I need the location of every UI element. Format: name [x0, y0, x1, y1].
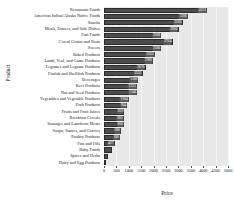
bar-value-label: 808	[117, 122, 124, 127]
bar-value-label: 2052	[146, 52, 154, 57]
bar[interactable]	[104, 39, 173, 44]
bar-value-label: 1553	[134, 71, 142, 76]
bar-value-label: 819	[117, 109, 124, 114]
x-tick-label: 3500	[187, 168, 196, 173]
bar-value-label: 1323	[128, 84, 136, 89]
x-axis-title: Price	[104, 190, 230, 196]
gridline	[228, 7, 229, 166]
bar[interactable]	[104, 27, 179, 32]
bar-value-label: 1004	[120, 97, 128, 102]
bar-value-label: 1388	[130, 77, 138, 82]
x-tick-label: 5000	[224, 168, 233, 173]
bar-value-label: 4153	[198, 8, 206, 13]
x-tick-label: 2000	[149, 168, 158, 173]
x-tick-label: 500	[113, 168, 119, 173]
bar-value-label: 3166	[174, 20, 182, 25]
category-label: Dairy and Egg Products	[59, 160, 100, 166]
bar-value-label: 3006	[170, 27, 178, 32]
bar-value-label: 660	[113, 135, 120, 140]
bar-value-label: 2306	[152, 46, 160, 51]
x-tick-mark	[129, 166, 130, 168]
x-tick-label: 0	[103, 168, 105, 173]
x-tick-label: 4000	[199, 168, 208, 173]
x-tick-label: 4500	[211, 168, 220, 173]
bar[interactable]	[104, 20, 183, 25]
bar[interactable]	[104, 8, 207, 13]
bar-value-label: 1346	[129, 90, 137, 95]
x-tick-label: 1000	[125, 168, 134, 173]
bar[interactable]	[104, 154, 108, 159]
x-tick-mark	[203, 166, 204, 168]
bar-value-label: 2308	[152, 33, 160, 38]
x-tick-label: 3000	[174, 168, 183, 173]
x-tick-mark	[191, 166, 192, 168]
x-tick-mark	[216, 166, 217, 168]
x-tick-label: 1500	[137, 168, 146, 173]
bar-chart-figure: Product 41533386316630062308276423062052…	[0, 0, 234, 205]
bar[interactable]	[104, 14, 188, 19]
bar[interactable]	[104, 160, 106, 165]
bar-value-label: 2764	[164, 39, 172, 44]
x-tick-mark	[228, 166, 229, 168]
bar[interactable]	[104, 147, 112, 152]
x-tick-mark	[116, 166, 117, 168]
x-tick-mark	[166, 166, 167, 168]
bar-value-label: 805	[117, 116, 124, 121]
bars-container: 4153338631663006230827642306205219821676…	[104, 7, 228, 166]
x-tick-label: 2500	[162, 168, 171, 173]
x-tick-mark	[104, 166, 105, 168]
bar-value-label: 1676	[137, 65, 145, 70]
bar-value-label: 686	[114, 128, 121, 133]
category-axis-labels: Restaurant FoodsAmerican Indian/Alaska N…	[0, 7, 102, 166]
bar-value-label: 1982	[144, 58, 152, 63]
x-tick-mark	[178, 166, 179, 168]
x-tick-mark	[141, 166, 142, 168]
bar-value-label: 3386	[179, 14, 187, 19]
bar-value-label: 944	[120, 103, 127, 108]
x-tick-mark	[154, 166, 155, 168]
bar-value-label: 427	[108, 141, 115, 146]
x-axis-tick-labels: 0500100015002000250030003500400045005000	[104, 168, 228, 178]
